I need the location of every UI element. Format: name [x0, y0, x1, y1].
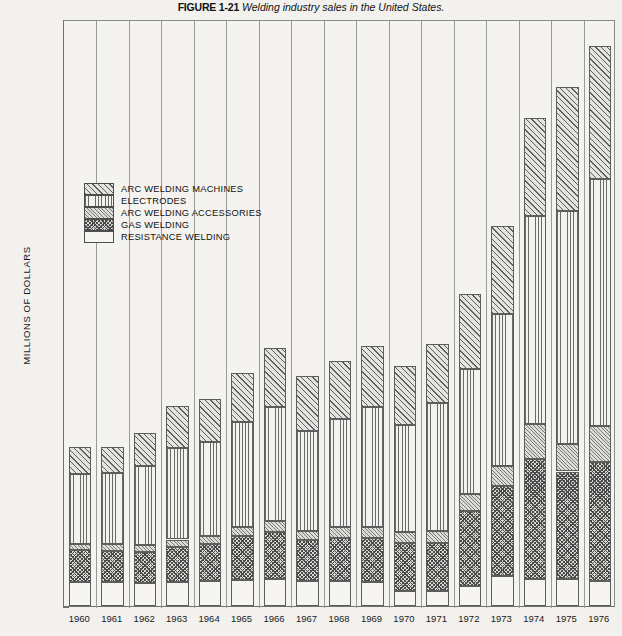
bar-segment-1962-arc-welding-accessories	[134, 545, 157, 552]
bar-1961[interactable]	[101, 447, 124, 606]
bar-1975[interactable]	[556, 87, 579, 606]
bar-segment-1970-electrodes	[394, 425, 417, 532]
bar-segment-1963-resistance-welding	[166, 582, 189, 606]
bar-segment-1974-arc-welding-accessories	[524, 424, 547, 459]
bar-segment-1971-arc-welding-machines	[426, 344, 449, 403]
bar-segment-1973-arc-welding-machines	[491, 226, 514, 314]
x-axis-gridline	[129, 21, 130, 608]
x-axis-tick-label-1974: 1974	[518, 613, 550, 624]
bar-segment-1960-arc-welding-accessories	[69, 544, 92, 550]
legend-item-accessories[interactable]: ARC WELDING ACCESSORIES	[84, 207, 284, 219]
bar-segment-1969-electrodes	[361, 407, 384, 527]
bar-segment-1961-arc-welding-accessories	[101, 544, 124, 551]
x-axis-tick-label-1967: 1967	[290, 613, 322, 624]
bar-1967[interactable]	[296, 376, 319, 606]
y-axis-label: MILLIONS OF DOLLARS	[21, 216, 32, 396]
bar-segment-1976-gas-welding	[589, 462, 612, 581]
x-axis-tick-label-1963: 1963	[160, 613, 192, 624]
bar-segment-1974-gas-welding	[524, 459, 547, 579]
bar-1963[interactable]	[166, 406, 189, 606]
bar-1970[interactable]	[394, 366, 417, 606]
bar-1973[interactable]	[491, 226, 514, 606]
bar-segment-1960-gas-welding	[69, 550, 92, 582]
bar-segment-1963-arc-welding-machines	[166, 406, 189, 448]
legend-item-machines[interactable]: ARC WELDING MACHINES	[84, 183, 284, 195]
bar-1971[interactable]	[426, 344, 449, 606]
bar-1964[interactable]	[199, 399, 222, 606]
bar-segment-1965-electrodes	[231, 422, 254, 527]
x-axis-tick-label-1973: 1973	[485, 613, 517, 624]
x-axis-gridline	[161, 21, 162, 608]
x-axis-gridline	[194, 21, 195, 608]
bar-segment-1967-gas-welding	[296, 540, 319, 580]
bar-1962[interactable]	[134, 433, 157, 606]
bar-segment-1961-arc-welding-machines	[101, 447, 124, 474]
bar-1960[interactable]	[69, 447, 92, 606]
bar-segment-1973-gas-welding	[491, 486, 514, 576]
bar-segment-1963-electrodes	[166, 448, 189, 540]
bar-segment-1970-arc-welding-machines	[394, 366, 417, 425]
bar-segment-1966-resistance-welding	[264, 579, 287, 606]
bar-segment-1976-arc-welding-accessories	[589, 426, 612, 461]
legend-item-gas[interactable]: GAS WELDING	[84, 219, 284, 231]
bar-segment-1967-resistance-welding	[296, 581, 319, 606]
bar-segment-1966-arc-welding-accessories	[264, 521, 287, 532]
bar-1972[interactable]	[459, 294, 482, 606]
bar-1968[interactable]	[329, 361, 352, 606]
bar-segment-1962-gas-welding	[134, 552, 157, 582]
bar-segment-1960-electrodes	[69, 474, 92, 544]
bar-1965[interactable]	[231, 373, 254, 606]
figure-caption: FIGURE 1-21 Welding industry sales in th…	[0, 0, 622, 18]
bar-segment-1971-gas-welding	[426, 543, 449, 591]
x-axis-tick-label-1975: 1975	[550, 613, 582, 624]
bar-segment-1971-electrodes	[426, 403, 449, 531]
bar-segment-1966-electrodes	[264, 407, 287, 520]
bar-segment-1973-electrodes	[491, 314, 514, 466]
bar-segment-1974-arc-welding-machines	[524, 118, 547, 216]
x-axis-gridline	[259, 21, 260, 608]
bar-segment-1960-arc-welding-machines	[69, 447, 92, 474]
bar-segment-1973-resistance-welding	[491, 576, 514, 606]
x-axis-tick-label-1966: 1966	[258, 613, 290, 624]
bar-segment-1972-arc-welding-machines	[459, 294, 482, 369]
x-axis-gridline	[96, 21, 97, 608]
x-axis-gridline	[291, 21, 292, 608]
bar-segment-1973-arc-welding-accessories	[491, 466, 514, 487]
bar-1969[interactable]	[361, 346, 384, 606]
figure-title: Welding industry sales in the United Sta…	[242, 1, 444, 13]
bar-1966[interactable]	[264, 348, 287, 606]
bar-segment-1969-gas-welding	[361, 538, 384, 582]
bar-segment-1976-resistance-welding	[589, 581, 612, 606]
bar-segment-1968-gas-welding	[329, 538, 352, 581]
bar-segment-1961-electrodes	[101, 473, 124, 544]
figure-number: FIGURE 1-21	[178, 1, 239, 13]
x-axis-tick-label-1968: 1968	[323, 613, 355, 624]
bar-1976[interactable]	[589, 46, 612, 606]
chart-plot-area	[63, 20, 615, 607]
bar-1974[interactable]	[524, 118, 547, 606]
bar-segment-1972-resistance-welding	[459, 586, 482, 606]
x-axis-tick-label-1969: 1969	[355, 613, 387, 624]
x-axis-tick-label-1961: 1961	[95, 613, 127, 624]
bar-segment-1967-arc-welding-accessories	[296, 531, 319, 541]
bar-segment-1962-arc-welding-machines	[134, 433, 157, 466]
bar-segment-1969-resistance-welding	[361, 582, 384, 606]
legend-label-gas: GAS WELDING	[121, 219, 189, 231]
x-axis-tick-label-1971: 1971	[420, 613, 452, 624]
legend-item-resistance[interactable]: RESISTANCE WELDING	[84, 231, 284, 243]
bar-segment-1969-arc-welding-machines	[361, 346, 384, 407]
bar-segment-1972-arc-welding-accessories	[459, 494, 482, 511]
bar-segment-1962-resistance-welding	[134, 583, 157, 606]
x-axis-tick-label-1970: 1970	[388, 613, 420, 624]
x-axis-gridline	[519, 21, 520, 608]
bar-segment-1963-gas-welding	[166, 547, 189, 581]
legend-item-electrodes[interactable]: ELECTRODES	[84, 195, 284, 207]
legend-swatch-accessories	[84, 207, 114, 219]
legend-swatch-resistance	[84, 231, 114, 243]
x-axis-tick-label-1972: 1972	[453, 613, 485, 624]
y-axis: 0100200300400500600700800900100011001200	[0, 0, 63, 636]
bar-segment-1967-electrodes	[296, 431, 319, 531]
bar-segment-1976-arc-welding-machines	[589, 46, 612, 180]
bar-segment-1964-resistance-welding	[199, 581, 222, 606]
x-axis-gridline	[421, 21, 422, 608]
